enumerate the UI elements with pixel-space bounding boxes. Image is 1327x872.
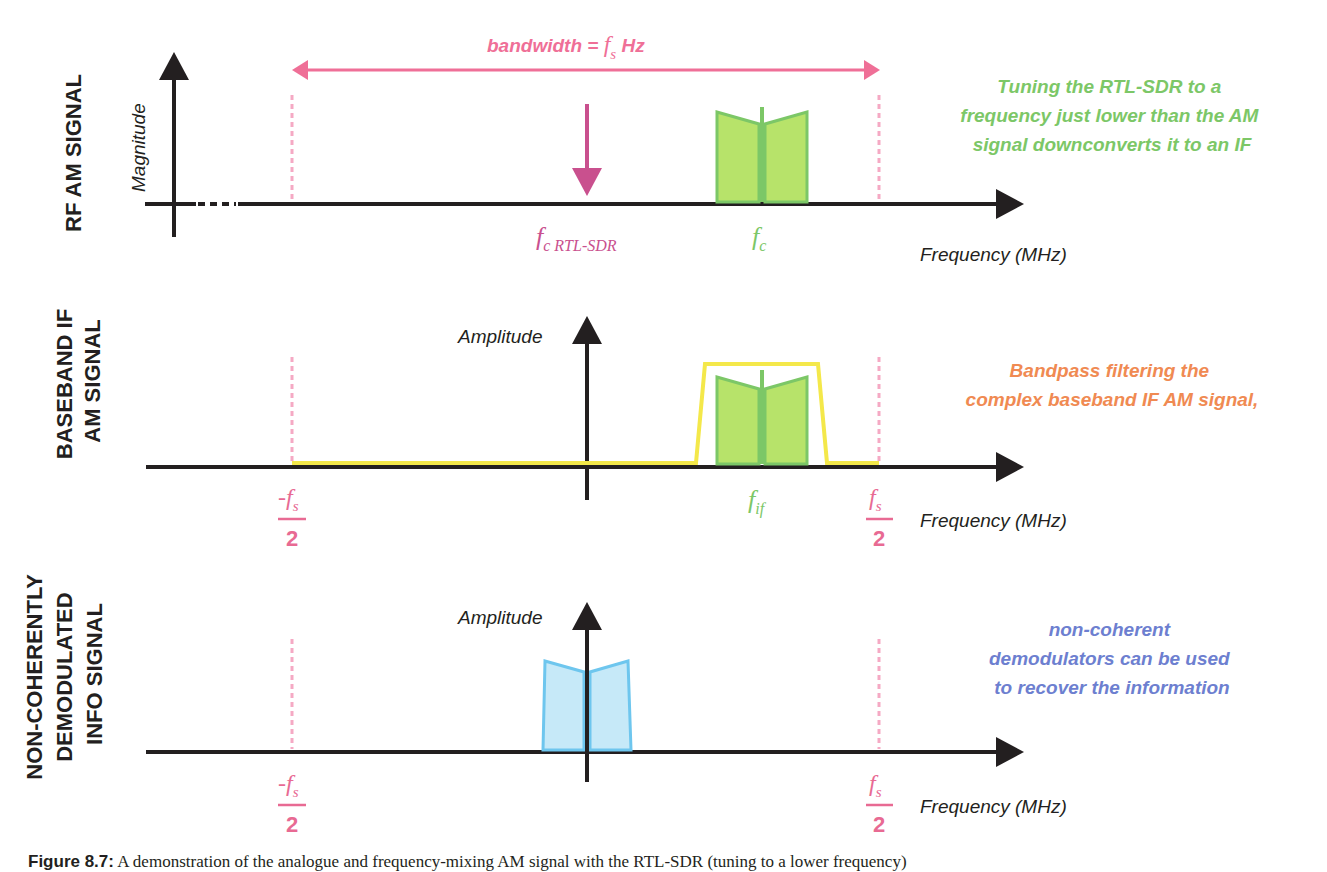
tuning-marker-arrow-icon [572, 168, 602, 196]
row-label-rf-am-signal: RF AM SIGNAL [61, 74, 86, 232]
figure-caption-text: A demonstration of the analogue and freq… [114, 852, 907, 871]
y-axis-label: Amplitude [457, 607, 543, 628]
note-tuning: Tuning the RTL-SDR to a frequency just l… [960, 76, 1263, 155]
right-edge-label: fs 2 [866, 484, 893, 551]
lower-sideband [717, 112, 759, 202]
figure-caption-label: Figure 8.7: [28, 852, 114, 871]
lower-sideband [717, 377, 759, 464]
x-axis-label: Frequency (MHz) [920, 796, 1067, 817]
row-label-baseband-if: BASEBAND IF AM SIGNAL [52, 303, 105, 459]
svg-text:2: 2 [873, 812, 885, 837]
if-label: fif [748, 485, 767, 518]
y-axis-arrowhead-icon [572, 316, 602, 344]
upper-sideband [765, 112, 807, 202]
bandwidth-label: bandwidth = fs Hz [487, 31, 645, 62]
svg-text:-fs: -fs [278, 770, 299, 800]
note-demodulators: non-coherent demodulators can be used to… [989, 619, 1235, 698]
note-bandpass: Bandpass filtering the complex baseband … [966, 360, 1259, 410]
svg-text:2: 2 [286, 812, 298, 837]
carrier-label: fc [752, 222, 766, 254]
panel-rf-am-signal: RF AM SIGNAL Magnitude Frequency (MHz) b… [61, 31, 1264, 265]
am-spectrum [717, 107, 807, 202]
left-edge-label: -fs 2 [278, 484, 306, 551]
x-axis-arrowhead-icon [996, 452, 1024, 482]
tuning-marker-label: fc RTL-SDR [536, 222, 617, 254]
svg-text:-fs: -fs [278, 484, 299, 514]
y-axis-arrowhead-icon [572, 602, 602, 630]
right-edge-label: fs 2 [866, 770, 893, 837]
y-axis-label: Amplitude [457, 326, 543, 347]
panel-baseband-if-am-signal: BASEBAND IF AM SIGNAL Frequency (MHz) Am… [52, 303, 1258, 551]
svg-text:2: 2 [286, 526, 298, 551]
negative-band [543, 661, 584, 750]
x-axis-label: Frequency (MHz) [920, 244, 1067, 265]
upper-sideband [765, 377, 807, 464]
svg-text:fs: fs [869, 484, 882, 514]
svg-text:2: 2 [873, 526, 885, 551]
y-axis-arrowhead-icon [159, 52, 189, 80]
bandwidth-arrow-left-icon [292, 60, 308, 80]
left-edge-label: -fs 2 [278, 770, 306, 837]
svg-text:fs: fs [869, 770, 882, 800]
figure-caption: Figure 8.7: A demonstration of the analo… [28, 852, 907, 872]
positive-band [590, 661, 631, 750]
x-axis-label: Frequency (MHz) [920, 510, 1067, 531]
row-label-demodulated: NON-COHERENTLY DEMODULATED INFO SIGNAL [22, 568, 107, 779]
x-axis-arrowhead-icon [996, 737, 1024, 767]
bandwidth-arrow-right-icon [864, 60, 880, 80]
if-spectrum [717, 370, 807, 464]
y-axis-label: Magnitude [128, 103, 149, 192]
panel-demodulated-info-signal: NON-COHERENTLY DEMODULATED INFO SIGNAL F… [22, 568, 1235, 837]
x-axis-arrowhead-icon [996, 189, 1024, 219]
